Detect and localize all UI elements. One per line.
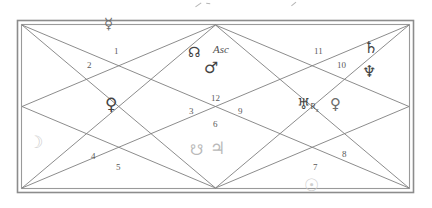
moon-glyph-icon: ☽ bbox=[28, 132, 43, 152]
planet-jupiter: ♃ bbox=[210, 140, 225, 157]
house-number-2: 2 bbox=[87, 61, 92, 70]
pluto-glyph-icon: ♀ bbox=[105, 94, 117, 114]
planet-sun: ☉ bbox=[304, 177, 319, 194]
planet-moon: ☽ bbox=[28, 134, 43, 151]
chart-linework bbox=[0, 0, 432, 208]
house-number-7: 7 bbox=[313, 163, 318, 172]
ascendant-label: Asc bbox=[213, 44, 229, 55]
planet-uranus: ♅Rx bbox=[297, 96, 319, 113]
house-number-8: 8 bbox=[342, 150, 347, 159]
mars-glyph-icon: ♂ bbox=[204, 58, 218, 77]
jupiter-glyph-icon: ♃ bbox=[210, 138, 225, 158]
planet-mars: ♂ bbox=[204, 60, 218, 76]
planet-ketu: ☋ bbox=[190, 142, 203, 158]
uranus-glyph-icon: ♅ bbox=[297, 95, 310, 113]
uranus-retrograde-marker: Rx bbox=[310, 102, 318, 111]
mercury-glyph-icon: ☿ bbox=[104, 15, 113, 33]
house-number-9: 9 bbox=[238, 107, 243, 116]
house-number-12: 12 bbox=[211, 94, 220, 103]
sun-glyph-icon: ☉ bbox=[304, 175, 319, 195]
ketu-glyph-icon: ☋ bbox=[190, 141, 203, 159]
house-number-1: 1 bbox=[114, 47, 119, 56]
saturn-glyph-icon: ♄ bbox=[364, 38, 378, 57]
house-number-6: 6 bbox=[213, 120, 218, 129]
venus-glyph-icon: ♀ bbox=[330, 95, 341, 113]
house-number-10: 10 bbox=[337, 61, 346, 70]
rahu-glyph-icon: ☊ bbox=[188, 44, 200, 60]
house-number-5: 5 bbox=[116, 163, 121, 172]
planet-mercury: ☿ bbox=[104, 16, 113, 32]
planet-neptune: ♆ bbox=[362, 64, 376, 80]
planet-pluto: ♀ bbox=[105, 96, 117, 113]
house-number-3: 3 bbox=[189, 107, 194, 116]
planet-venus: ♀ bbox=[330, 96, 341, 112]
neptune-glyph-icon: ♆ bbox=[362, 62, 376, 81]
scan-artifact-mark bbox=[206, 3, 211, 9]
planet-rahu: ☊ bbox=[188, 44, 200, 60]
house-number-11: 11 bbox=[314, 47, 323, 56]
retrograde-subscript: x bbox=[316, 107, 319, 113]
vedic-birth-chart: 123456789101112 ☿☊♂♄♆♅Rx♀♀☽☋♃☉ Asc bbox=[0, 0, 432, 208]
planet-saturn: ♄ bbox=[364, 40, 378, 56]
house-number-4: 4 bbox=[91, 152, 96, 161]
